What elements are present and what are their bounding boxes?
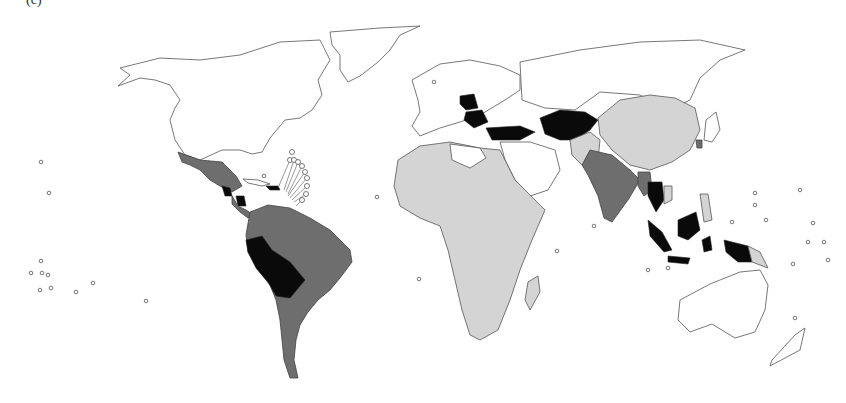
lesser-antilles-callout xyxy=(278,150,310,207)
world-map xyxy=(0,0,846,403)
borneo xyxy=(678,212,700,240)
new-zealand xyxy=(770,328,805,366)
java xyxy=(668,256,690,264)
greenland xyxy=(330,26,420,82)
sulawesi xyxy=(702,236,712,252)
thailand xyxy=(648,182,664,212)
new-guinea-west xyxy=(724,240,752,262)
south-korea xyxy=(696,140,702,148)
cuba xyxy=(243,179,270,186)
papua-new-guinea xyxy=(748,246,768,268)
sumatra xyxy=(648,220,672,252)
madagascar xyxy=(525,276,540,310)
turkey xyxy=(486,126,535,140)
japan xyxy=(704,112,720,142)
australia xyxy=(678,270,768,338)
south-america xyxy=(246,205,352,378)
vietnam xyxy=(664,186,672,204)
philippines xyxy=(700,194,712,222)
mexico xyxy=(178,152,242,192)
hispaniola xyxy=(266,186,280,190)
north-america xyxy=(118,40,330,160)
